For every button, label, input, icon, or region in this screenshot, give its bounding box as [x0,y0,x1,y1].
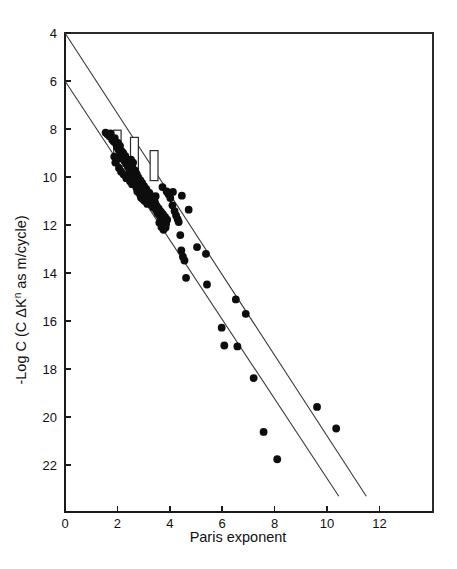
data-point [176,231,184,239]
data-point [182,274,190,282]
figure-container: 02468101246810121416182022 Paris exponen… [0,0,457,569]
x-axis-label: Paris exponent [190,529,287,545]
data-points [102,129,340,463]
plot-frame [65,33,433,512]
y-tick-label: 18 [43,362,57,377]
x-tick-label: 4 [166,516,173,531]
data-point [332,425,340,433]
y-tick-label: 6 [50,74,57,89]
y-tick-label: 10 [43,170,57,185]
primary-axes [65,33,433,512]
data-point [181,257,189,265]
y-tick-label: 12 [43,218,57,233]
x-tick-label: 10 [320,516,334,531]
data-point [163,188,171,196]
data-point [273,455,281,463]
y-tick-label: 4 [50,26,57,41]
data-point [153,206,161,214]
trend-lines [65,33,366,496]
data-point [202,250,210,258]
y-axis-label-suffix: as m/cycle) [13,215,29,292]
data-point [313,403,321,411]
data-point [129,159,137,167]
upper-bound-line [65,33,366,496]
data-point [220,342,228,350]
data-point [122,174,130,182]
data-point [232,296,240,304]
data-point [242,310,250,318]
data-point [163,216,171,224]
data-point [185,206,193,214]
scatter-plot: 02468101246810121416182022 Paris exponen… [0,0,457,569]
data-point [130,175,138,183]
svg-text:-Log C (C ΔKn as m/cycle): -Log C (C ΔKn as m/cycle) [12,215,29,384]
axis-tick-labels: 02468101246810121416182022 [43,26,387,532]
data-point [203,281,211,289]
x-tick-label: 0 [61,516,68,531]
box-marker-3 [150,151,158,181]
y-tick-label: 16 [43,314,57,329]
y-tick-label: 20 [43,410,57,425]
data-point [162,224,170,232]
data-point [139,186,147,194]
plot-border [65,33,433,512]
y-tick-label: 14 [43,266,57,281]
y-tick-label: 22 [43,458,57,473]
data-point [260,428,268,436]
data-point [250,374,258,382]
data-point [152,192,160,200]
data-point [175,218,183,226]
y-tick-label: 8 [50,122,57,137]
data-point [193,243,201,251]
lower-bound-line [65,81,339,496]
data-point [233,343,241,351]
x-tick-label: 12 [372,516,386,531]
y-axis-label: -Log C (C ΔKn as m/cycle) [12,215,29,384]
data-point [114,155,122,163]
y-axis-label-prefix: -Log C (C ΔK [13,298,29,385]
x-tick-label: 2 [114,516,121,531]
data-point [218,324,226,332]
data-point [178,192,186,200]
